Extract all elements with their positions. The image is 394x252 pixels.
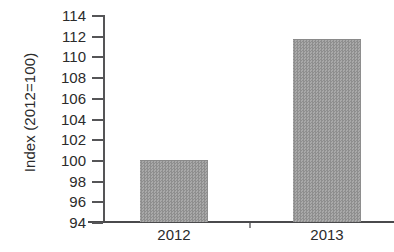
y-axis-tick-labels: 114112110108106104102100989694 bbox=[36, 15, 86, 222]
y-axis-tick-label: 96 bbox=[69, 193, 86, 210]
y-axis-tick-label: 112 bbox=[62, 27, 86, 44]
y-axis-tick-label: 110 bbox=[62, 48, 86, 65]
bar-2013 bbox=[293, 39, 361, 222]
y-axis-tick-label: 100 bbox=[61, 151, 86, 168]
y-axis-tick-mark bbox=[92, 201, 103, 203]
y-axis-tick-label: 104 bbox=[61, 110, 86, 127]
y-axis-tick-mark bbox=[92, 98, 103, 100]
x-axis-tick-label: 2013 bbox=[272, 226, 382, 243]
y-axis-tick-label: 102 bbox=[61, 131, 86, 148]
bar-2012 bbox=[140, 160, 208, 222]
y-axis-tick-mark bbox=[92, 36, 103, 38]
bar-group bbox=[293, 15, 361, 222]
x-axis-tick-label: 2012 bbox=[119, 226, 229, 243]
y-axis-tick-label: 114 bbox=[62, 7, 86, 24]
bar-chart-figure: Index (2012=100) 11411211010810610410210… bbox=[0, 0, 394, 252]
y-axis-tick-mark bbox=[92, 15, 103, 17]
y-axis-tick-label: 106 bbox=[61, 89, 86, 106]
y-axis-tick-mark bbox=[92, 181, 103, 183]
y-axis-tick-label: 94 bbox=[69, 214, 86, 231]
y-axis-tick-mark bbox=[92, 139, 103, 141]
y-axis-tick-mark bbox=[92, 222, 103, 224]
x-axis-tick-labels: 20122013 bbox=[105, 226, 394, 252]
y-axis-tick-mark bbox=[92, 119, 103, 121]
y-axis-tick-mark bbox=[92, 77, 103, 79]
plot-area bbox=[105, 15, 394, 222]
y-axis-title: Index (2012=100) bbox=[21, 8, 38, 218]
y-axis-tick-mark bbox=[92, 56, 103, 58]
y-axis-tick-mark bbox=[92, 160, 103, 162]
bar-group bbox=[140, 15, 208, 222]
y-axis-tick-label: 108 bbox=[61, 69, 86, 86]
y-axis-tick-label: 98 bbox=[69, 172, 86, 189]
